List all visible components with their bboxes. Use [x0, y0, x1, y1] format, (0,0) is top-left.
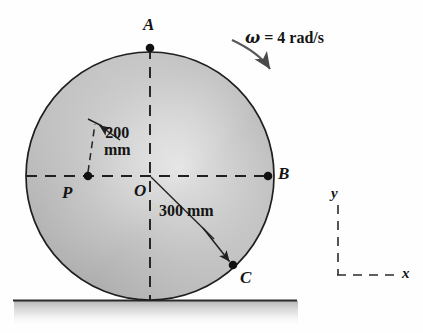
axis-label-x: x	[402, 266, 410, 282]
dimension-label-200mm: 200 mm	[104, 125, 131, 159]
figure-canvas	[0, 0, 423, 333]
dimension-label-200mm-unit: mm	[104, 142, 131, 159]
point-label-c: C	[240, 269, 251, 287]
point-label-o: O	[134, 182, 146, 200]
point-marker-p	[84, 172, 93, 181]
point-label-p: P	[62, 184, 72, 202]
point-marker-c	[229, 261, 238, 270]
ground-shadow	[14, 301, 298, 327]
omega-symbol: ω	[245, 28, 260, 47]
dimension-label-300mm: 300 mm	[159, 203, 214, 220]
dimension-label-200mm-value: 200	[104, 125, 131, 142]
axis-label-y: y	[331, 186, 338, 202]
angular-velocity-label: ω = 4 rad/s	[245, 30, 324, 47]
point-marker-b	[264, 172, 273, 181]
point-label-a: A	[143, 16, 154, 34]
point-label-b: B	[278, 165, 289, 183]
point-marker-a	[146, 44, 155, 53]
mechanics-figure: A B C O P 200 mm 300 mm ω = 4 rad/s y x	[0, 0, 423, 333]
omega-equation-rest: = 4 rad/s	[260, 29, 324, 46]
